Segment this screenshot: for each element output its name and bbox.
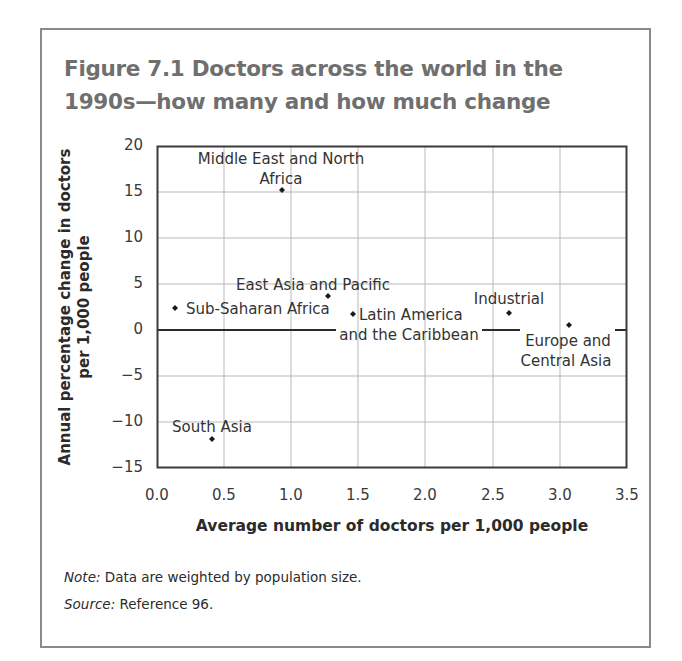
label-south-asia: South Asia — [172, 418, 252, 436]
scatter-plot: Middle East and North Africa East Asia a… — [0, 0, 682, 661]
note-text: Data are weighted by population size. — [101, 569, 362, 585]
x-tick: 1.0 — [266, 486, 316, 504]
x-tick: 1.5 — [333, 486, 383, 504]
figure-source: Source: Reference 96. — [64, 596, 213, 612]
x-tick: 0.0 — [132, 486, 182, 504]
label-lac-1: Latin America — [359, 306, 463, 324]
point-south-asia — [209, 436, 215, 442]
point-industrial — [506, 310, 512, 316]
label-mena-2: Africa — [260, 170, 303, 188]
label-eca-1: Europe and — [525, 332, 611, 350]
source-text: Reference 96. — [115, 596, 213, 612]
source-label: Source: — [64, 596, 115, 612]
x-tick: 2.0 — [400, 486, 450, 504]
label-eap: East Asia and Pacific — [236, 276, 390, 294]
x-tick: 3.5 — [602, 486, 652, 504]
label-ssa: Sub-Saharan Africa — [186, 300, 330, 318]
point-eca — [566, 322, 572, 328]
figure-note: Note: Data are weighted by population si… — [64, 569, 362, 585]
x-tick: 3.0 — [535, 486, 585, 504]
label-industrial: Industrial — [474, 290, 544, 308]
label-eca-2: Central Asia — [521, 352, 612, 370]
note-label: Note: — [64, 569, 101, 585]
label-lac-2: and the Caribbean — [339, 326, 478, 344]
x-tick: 0.5 — [199, 486, 249, 504]
label-mena-1: Middle East and North — [198, 150, 364, 168]
x-axis-label: Average number of doctors per 1,000 peop… — [157, 517, 627, 535]
point-ssa — [172, 305, 178, 311]
point-lac — [350, 311, 356, 317]
x-tick: 2.5 — [468, 486, 518, 504]
